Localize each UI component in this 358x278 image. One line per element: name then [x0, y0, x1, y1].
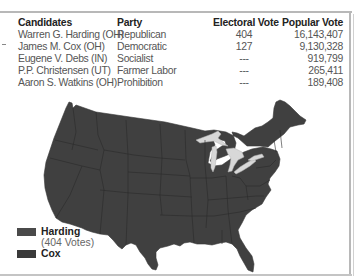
electoral-vote: ---: [213, 65, 275, 77]
party-name: Democratic: [117, 41, 213, 53]
header-candidates: Candidates: [18, 17, 117, 29]
legend-label-harding: Harding: [41, 226, 80, 237]
party-name: Socialist: [117, 53, 213, 65]
candidate-name: Aaron S. Watkins (OH): [18, 77, 117, 89]
candidate-name: P.P. Christensen (UT): [18, 65, 117, 77]
margin-tick: [2, 44, 6, 45]
electoral-vote: 404: [213, 29, 275, 41]
party-name: Republican: [117, 29, 213, 41]
popular-vote: 265,411: [275, 65, 343, 77]
header-electoral-vote: Electoral Vote: [213, 17, 275, 29]
harding-swatch: [17, 228, 36, 236]
party-name: Prohibition: [117, 77, 213, 89]
frame-top-border: [0, 11, 352, 13]
legend-sublabel-harding: (404 Votes): [17, 237, 94, 248]
electoral-vote: 127: [213, 41, 275, 53]
electoral-vote: ---: [213, 53, 275, 65]
results-table: Candidates Party Electoral Vote Popular …: [18, 17, 343, 89]
candidate-name: Warren G. Harding (OH): [18, 29, 117, 41]
table-row: Warren G. Harding (OH) Republican 404 16…: [18, 29, 343, 41]
legend-item-harding: Harding: [17, 226, 94, 237]
legend-label-cox: Cox: [41, 248, 61, 259]
party-name: Farmer Labor: [117, 65, 213, 77]
candidate-name: James M. Cox (OH): [18, 41, 117, 53]
popular-vote: 9,130,328: [275, 41, 343, 53]
popular-vote: 919,799: [275, 53, 343, 65]
table-header: Candidates Party Electoral Vote Popular …: [18, 17, 343, 29]
table-row: P.P. Christensen (UT) Farmer Labor --- 2…: [18, 65, 343, 77]
header-popular-vote: Popular Vote: [275, 17, 343, 29]
cox-swatch: [17, 250, 36, 258]
popular-vote: 16,143,407: [275, 29, 343, 41]
table-row: Aaron S. Watkins (OH) Prohibition --- 18…: [18, 77, 343, 89]
table-row: Eugene V. Debs (IN) Socialist --- 919,79…: [18, 53, 343, 65]
electoral-vote: ---: [213, 77, 275, 89]
header-party: Party: [117, 17, 213, 29]
map-legend: Harding (404 Votes) Cox: [17, 226, 94, 259]
table-row: James M. Cox (OH) Democratic 127 9,130,3…: [18, 41, 343, 53]
legend-item-cox: Cox: [17, 248, 94, 259]
candidate-name: Eugene V. Debs (IN): [18, 53, 117, 65]
popular-vote: 189,408: [275, 77, 343, 89]
